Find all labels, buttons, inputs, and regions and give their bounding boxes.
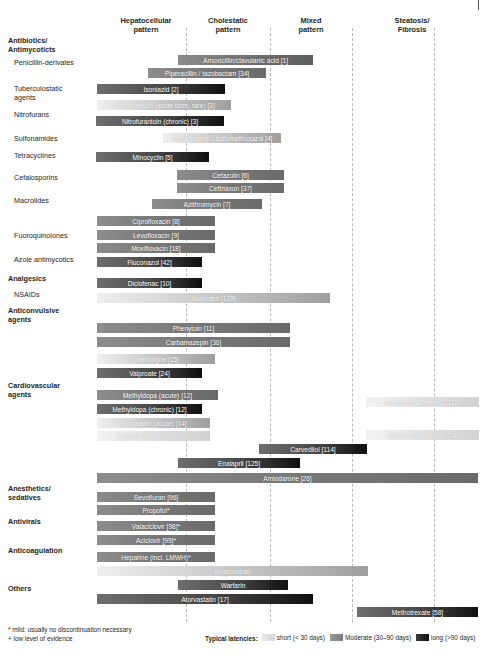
drug-bar-label: Carbamazepin [36]: [163, 339, 225, 346]
drug-bar[interactable]: Enalapril [125]: [178, 458, 300, 468]
drug-bar-label: Rivaroxaban: [211, 568, 254, 575]
drug-bar-label: Methyldopa (acute) [12]: [120, 392, 195, 399]
drug-bar[interactable]: Azithromycin [7]: [152, 199, 262, 209]
drug-bar[interactable]: Valaciclovir [98]*: [97, 521, 215, 531]
drug-bar[interactable]: Cefazolin [6]: [177, 170, 284, 180]
drug-bar[interactable]: Minocyclin [5]: [96, 152, 209, 162]
category-label-12: NSAIDs: [14, 291, 106, 300]
drug-bar[interactable]: Heparine (incl. LMWH)*: [97, 552, 215, 562]
drug-bar[interactable]: Diclofenac [10]: [97, 278, 202, 288]
drug-bar[interactable]: Ceftriaxon [37]: [177, 183, 284, 193]
category-label-4: Nitrofurans: [14, 111, 106, 120]
drug-bar[interactable]: Warfarin: [178, 580, 288, 590]
drug-bar-label: Nitrofurantoin (chronic) [3]: [119, 118, 201, 125]
drug-bar[interactable]: Ciprofloxacin [8]: [97, 216, 215, 226]
drug-bar[interactable]: Carbamazepin [36]: [97, 337, 290, 347]
drug-bar[interactable]: Methyldopa (acute) [12]: [97, 390, 218, 400]
category-label-10: Azole antimycotics: [14, 256, 106, 265]
drug-bar[interactable]: Rivaroxaban: [97, 566, 368, 576]
category-label-8: Macrolides: [14, 197, 106, 206]
drug-bar-label: Carvedilol [114]: [287, 446, 338, 453]
drug-bar-label: Ibuprofen [139]: [188, 295, 238, 302]
drug-bar[interactable]: Propofol*: [97, 505, 215, 515]
drug-bar[interactable]: Moxifloxacin [18]: [97, 243, 215, 253]
drug-bar[interactable]: Sevofluran [96]: [97, 492, 215, 502]
legend-title: Typical latencies:: [205, 635, 258, 642]
category-label-9: Fuoroquinolones: [14, 232, 106, 241]
drug-bar[interactable]: Lamotrigne [15]: [97, 354, 215, 364]
drug-bar-label: Enalapril [125]: [215, 460, 263, 467]
drug-bar[interactable]: Phenytoin [11]: [97, 323, 290, 333]
legend-swatch-2: [330, 634, 343, 641]
legend-item-3: long (>90 days): [416, 634, 475, 641]
drug-bar-label: Sevofluran [96]: [131, 494, 181, 501]
legend-label-3: long (>90 days): [431, 634, 475, 641]
drug-bar-label: Trimethoprim / sulfomethoxazol [4]: [169, 135, 276, 142]
drug-bar-label: Isoniazid [2]: [140, 86, 181, 93]
drug-bar-label: Ceftriaxon [37]: [206, 185, 255, 192]
drug-bar-label: Amiodarone [26]: [260, 475, 314, 482]
category-label-11: Analgesics: [8, 275, 100, 284]
drug-bar[interactable]: Amoxicillin/clavulanic acid [1]: [178, 55, 313, 65]
drug-bar[interactable]: Methyldopa (chronic) [12]: [366, 397, 479, 407]
drug-bar-label: Methotrexate [58]: [389, 609, 446, 616]
category-label-15: Anesthetics/ sedatives: [8, 485, 100, 502]
drug-bar[interactable]: Trimethoprim / sulfomethoxazol [4]: [163, 133, 281, 143]
drug-bar-label: Heparine (incl. LMWH)*: [118, 554, 193, 561]
drug-bar[interactable]: Hydralazin (acute) [14]: [97, 418, 210, 428]
drug-bar[interactable]: Valproate [24]: [97, 368, 202, 378]
drug-bar[interactable]: Carvedilol [114]: [259, 444, 367, 454]
category-label-7: Cefalosporins: [14, 174, 106, 183]
category-label-17: Anticoagulation: [8, 547, 100, 556]
category-label-16: Antivirals: [8, 518, 100, 527]
footnote-text: * mild: usually no discontinuation neces…: [8, 626, 178, 643]
drug-bar[interactable]: Amiodarone [26]: [97, 473, 478, 483]
drug-bar[interactable]: Atorvastatin [17]: [97, 594, 313, 604]
drug-bar-label: Amoxicillin/clavulanic acid [1]: [200, 57, 291, 64]
category-label-18: Others: [8, 585, 100, 594]
drug-bar[interactable]: Fluconazol [42]: [97, 257, 202, 267]
drug-bar-label: Methyldopa (chronic) [12]: [109, 406, 189, 413]
category-label-6: Tetracyclines: [14, 152, 106, 161]
drug-bar[interactable]: Isoniazid [2]: [97, 84, 225, 94]
drug-bar[interactable]: Nitrofurantoin (acute form, rare) [3]: [97, 100, 231, 110]
drug-bar[interactable]: Methyldopa (chronic) [12]: [97, 404, 202, 414]
corner-tick-mark: [478, 0, 479, 10]
category-label-1: Antibiotics/ Antimycoticts: [8, 37, 100, 54]
column-header-3: Mixed pattern: [261, 16, 361, 34]
category-label-5: Sulfonamides: [14, 135, 106, 144]
drug-bar-label: Propofol*: [139, 507, 172, 514]
legend-swatch-3: [416, 634, 429, 641]
drug-bar-label: Hydralazin (chronic) [14]: [115, 433, 192, 440]
chart-canvas: Hepatocellular patternCholestatic patter…: [0, 0, 486, 656]
legend-item-2: Moderate (30–90 days): [330, 634, 411, 641]
drug-bar-label: Valproate [24]: [126, 370, 173, 377]
legend-items: short (< 30 days)Moderate (30–90 days)lo…: [262, 634, 480, 642]
drug-bar[interactable]: Ibuprofen [139]: [97, 293, 330, 303]
drug-bar-label: Valaciclovir [98]*: [129, 523, 183, 530]
drug-bar-label: Phenytoin [11]: [170, 325, 218, 332]
drug-bar-label: Methyldopa (chronic) [12]: [382, 399, 462, 406]
drug-bar[interactable]: Hydralazin (chronic) [14]: [97, 431, 210, 441]
drug-bar-label: Hydralazin (chronic) [14]: [384, 432, 461, 439]
category-label-3: Tuberculostatic agents: [14, 85, 106, 102]
drug-bar-label: Azithromycin [7]: [181, 201, 234, 208]
category-label-2: Penicillin-derivates: [14, 59, 106, 68]
gridline-3: [352, 28, 353, 622]
category-label-14: Cardiovascular agents: [8, 382, 100, 399]
drug-bar[interactable]: Nitrofurantoin (chronic) [3]: [96, 116, 224, 126]
drug-bar[interactable]: Levofloxacin [9]: [97, 230, 215, 240]
legend-label-2: Moderate (30–90 days): [345, 634, 411, 641]
legend-label-1: short (< 30 days): [277, 634, 325, 641]
drug-bar-label: Piperacillin / tazobactam [34]: [162, 70, 252, 77]
legend-swatch-1: [262, 634, 275, 641]
drug-bar-label: Moxifloxacin [18]: [128, 245, 183, 252]
drug-bar[interactable]: Methotrexate [58]: [357, 607, 478, 617]
drug-bar[interactable]: Piperacillin / tazobactam [34]: [148, 68, 266, 78]
drug-bar-label: Warfarin: [218, 582, 249, 589]
drug-bar-label: Fluconazol [42]: [124, 259, 175, 266]
gridline-4: [434, 28, 435, 622]
drug-bar[interactable]: Hydralazin (chronic) [14]: [366, 430, 479, 440]
drug-bar-label: Nitrofurantoin (acute form, rare) [3]: [110, 102, 218, 109]
drug-bar[interactable]: Aciclovir [99]*: [97, 535, 215, 545]
